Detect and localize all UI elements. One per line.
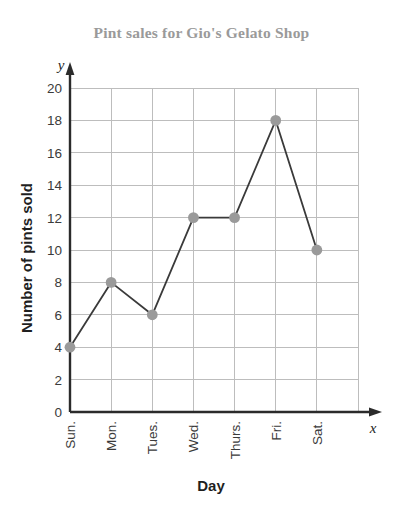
data-point — [311, 245, 322, 256]
y-tick-label: 20 — [47, 81, 62, 96]
x-tick-label: Fri. — [269, 421, 284, 441]
x-tick-label: Sat. — [310, 421, 325, 445]
y-tick-label: 8 — [54, 275, 62, 290]
x-tick-label: Thurs. — [228, 421, 243, 459]
y-tick-label: 12 — [47, 211, 62, 226]
line-chart: Pint sales for Gio's Gelato Shop 0246810… — [0, 0, 403, 515]
y-axis-arrow-icon — [66, 62, 75, 75]
data-point — [106, 277, 117, 288]
data-point — [229, 212, 240, 223]
x-axis-arrow-icon — [369, 408, 382, 417]
y-tick-label: 18 — [47, 113, 62, 128]
y-axis-title: Number of pints sold — [18, 183, 35, 333]
y-axis-tick-labels: 02468101214161820 — [47, 81, 63, 420]
data-point — [270, 115, 281, 126]
y-tick-label: 0 — [54, 405, 62, 420]
data-point — [65, 342, 76, 353]
chart-container: Pint sales for Gio's Gelato Shop 0246810… — [0, 0, 403, 515]
y-tick-label: 14 — [47, 178, 63, 193]
y-tick-label: 16 — [47, 146, 62, 161]
x-tick-label: Sun. — [63, 421, 78, 449]
x-axis-tick-labels: Sun.Mon.Tues.Wed.Thurs.Fri.Sat. — [63, 421, 325, 459]
y-tick-label: 10 — [47, 243, 62, 258]
x-axis-variable-label: x — [369, 420, 377, 436]
axes — [66, 62, 382, 416]
chart-title: Pint sales for Gio's Gelato Shop — [94, 24, 310, 41]
x-tick-label: Mon. — [104, 421, 119, 451]
data-point — [188, 212, 199, 223]
y-axis-variable-label: y — [56, 57, 65, 73]
data-point — [147, 309, 158, 320]
y-tick-label: 4 — [54, 340, 62, 355]
x-tick-label: Tues. — [145, 421, 160, 454]
y-tick-label: 2 — [54, 373, 62, 388]
y-tick-label: 6 — [54, 308, 62, 323]
x-axis-title: Day — [197, 477, 225, 494]
x-tick-label: Wed. — [186, 421, 201, 452]
horizontal-gridlines — [70, 88, 358, 380]
